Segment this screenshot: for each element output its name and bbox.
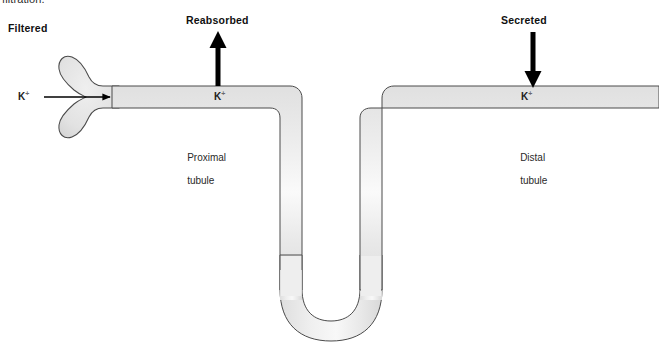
tubule-seam-cover bbox=[281, 256, 381, 296]
label-secreted: Secreted bbox=[501, 14, 547, 26]
label-potassium-filtered: K+ bbox=[18, 90, 29, 103]
label-potassium-distal: K+ bbox=[521, 90, 532, 103]
distal-tubule-line2: tubule bbox=[520, 175, 547, 186]
nephron-potassium-diagram: filtration. bbox=[0, 0, 659, 346]
proximal-tubule-line1: Proximal bbox=[187, 152, 226, 163]
nephron-illustration bbox=[0, 0, 659, 346]
reabsorption-arrow bbox=[210, 31, 227, 86]
potassium-charge-distal: + bbox=[528, 90, 532, 97]
secretion-arrow bbox=[525, 32, 542, 88]
potassium-charge-proximal: + bbox=[221, 90, 225, 97]
label-reabsorbed: Reabsorbed bbox=[186, 14, 249, 26]
label-proximal-tubule: Proximal tubule bbox=[176, 140, 226, 199]
label-filtered: Filtered bbox=[8, 22, 48, 34]
label-distal-tubule: Distal tubule bbox=[509, 140, 547, 199]
potassium-charge-filtered: + bbox=[25, 90, 29, 97]
distal-tubule-line1: Distal bbox=[520, 152, 545, 163]
proximal-tubule-line2: tubule bbox=[187, 175, 214, 186]
label-potassium-proximal: K+ bbox=[214, 90, 225, 103]
